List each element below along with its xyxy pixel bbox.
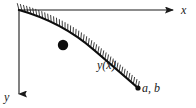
endpoint-coordinate-label: a, b <box>142 82 160 94</box>
y-axis-label: y <box>4 91 9 103</box>
endpoint-dot <box>135 85 140 90</box>
bead-marker <box>58 40 68 50</box>
figure-canvas <box>0 0 196 108</box>
physics-figure: x y y(x) a, b <box>0 0 196 108</box>
x-axis-label: x <box>181 4 186 16</box>
track-curve <box>19 10 138 88</box>
curve-function-label: y(x) <box>97 59 116 71</box>
